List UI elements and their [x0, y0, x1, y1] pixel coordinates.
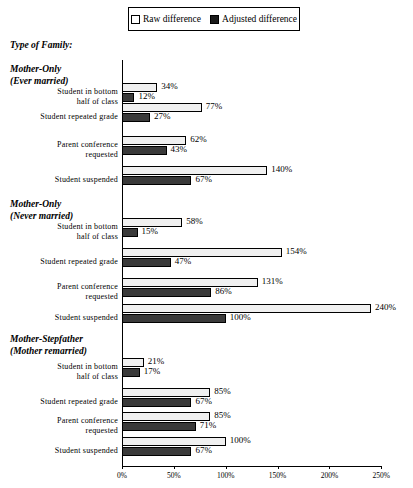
category-label-line: Student repeated grade — [40, 112, 118, 122]
x-axis-line — [122, 466, 381, 467]
bar-value-adjusted: 12% — [138, 92, 155, 101]
bar-value-raw: 85% — [214, 387, 231, 396]
x-axis-tick — [174, 466, 175, 469]
category-label-line: Student suspended — [55, 313, 118, 323]
chart-plot-area: 0%50%100%150%200%250% Mother-Only(Ever m… — [0, 0, 413, 488]
bar-adjusted-difference — [122, 146, 167, 155]
x-axis-tick-label: 150% — [269, 471, 287, 480]
category-label: Student repeated grade — [40, 112, 118, 122]
bar-adjusted-difference — [122, 368, 140, 377]
x-axis-tick — [122, 466, 123, 469]
bar-adjusted-difference — [122, 93, 134, 102]
bar-adjusted-difference — [122, 288, 211, 297]
x-axis-tick — [226, 466, 227, 469]
bar-value-raw: 140% — [271, 165, 292, 174]
bar-raw-difference — [122, 248, 282, 257]
x-axis-tick-label: 200% — [321, 471, 339, 480]
category-label-line: requested — [57, 292, 118, 302]
group-heading-name: Mother-Only — [10, 64, 68, 76]
bar-value-adjusted: 15% — [142, 227, 159, 236]
bar-value-adjusted: 47% — [175, 257, 192, 266]
category-label-line: half of class — [57, 97, 118, 107]
bar-adjusted-difference — [122, 422, 196, 431]
category-label-line: Parent conference — [57, 282, 118, 292]
bar-value-raw: 34% — [161, 82, 178, 91]
category-label: Parent conferencerequested — [57, 282, 118, 301]
group-heading: Mother-Only(Never married) — [10, 199, 73, 222]
x-axis-tick-label: 0% — [117, 471, 127, 480]
category-label-line: Parent conference — [57, 140, 118, 150]
bar-raw-difference — [122, 358, 144, 367]
category-label: Student repeated grade — [40, 397, 118, 407]
category-label: Student in bottomhalf of class — [57, 222, 118, 241]
bar-adjusted-difference — [122, 398, 191, 407]
category-label-line: Student suspended — [55, 175, 118, 185]
bar-adjusted-difference — [122, 176, 191, 185]
bar-raw-difference — [122, 412, 210, 421]
category-label-line: requested — [57, 426, 118, 436]
category-label-line: Student suspended — [55, 446, 118, 456]
x-axis-tick-label: 100% — [217, 471, 235, 480]
bar-value-adjusted: 71% — [200, 421, 217, 430]
category-label: Student suspended — [55, 175, 118, 185]
bar-value-adjusted: 67% — [195, 397, 212, 406]
category-label: Student in bottomhalf of class — [57, 362, 118, 381]
group-heading-name: Mother-Only — [10, 199, 73, 211]
x-axis-tick-label: 50% — [167, 471, 181, 480]
category-label: Parent conferencerequested — [57, 140, 118, 159]
bar-value-raw: 21% — [148, 357, 165, 366]
bar-adjusted-difference — [122, 258, 171, 267]
bar-value-raw: 154% — [286, 247, 307, 256]
group-heading-subtitle: (Ever married) — [10, 76, 68, 88]
x-axis-tick — [329, 466, 330, 469]
x-axis-tick — [381, 466, 382, 469]
category-label-line: half of class — [57, 232, 118, 242]
bar-value-raw: 100% — [230, 436, 251, 445]
group-heading: Mother-Only(Ever married) — [10, 64, 68, 87]
bar-value-raw: 62% — [190, 135, 207, 144]
bar-adjusted-difference — [122, 447, 191, 456]
category-label: Student suspended — [55, 446, 118, 456]
bar-raw-difference — [122, 278, 258, 287]
bar-value-raw: 131% — [262, 277, 283, 286]
bar-value-adjusted: 43% — [171, 145, 188, 154]
group-heading: Mother-Stepfather(Mother remarried) — [10, 334, 87, 357]
bar-value-adjusted: 86% — [215, 287, 232, 296]
x-axis-tick-label: 250% — [373, 471, 391, 480]
bar-value-adjusted: 67% — [195, 175, 212, 184]
bar-adjusted-difference — [122, 113, 150, 122]
category-label: Student suspended — [55, 313, 118, 323]
x-axis-tick — [278, 466, 279, 469]
bar-value-raw: 85% — [214, 411, 231, 420]
bar-value-adjusted: 100% — [230, 313, 251, 322]
bar-value-raw: 77% — [206, 102, 223, 111]
group-heading-name: Mother-Stepfather — [10, 334, 87, 346]
category-label: Student in bottomhalf of class — [57, 87, 118, 106]
category-label: Student repeated grade — [40, 257, 118, 267]
category-label-line: Parent conference — [57, 416, 118, 426]
category-label-line: requested — [57, 150, 118, 160]
group-heading-subtitle: (Never married) — [10, 211, 73, 223]
category-label-line: Student in bottom — [57, 362, 118, 372]
bar-value-raw: 58% — [186, 217, 203, 226]
category-label-line: Student repeated grade — [40, 397, 118, 407]
bar-adjusted-difference — [122, 314, 226, 323]
group-heading-subtitle: (Mother remarried) — [10, 346, 87, 358]
bar-value-adjusted: 67% — [195, 446, 212, 455]
category-label-line: Student repeated grade — [40, 257, 118, 267]
bar-value-raw: 240% — [375, 303, 396, 312]
category-label-line: half of class — [57, 372, 118, 382]
bar-value-adjusted: 27% — [154, 112, 171, 121]
bar-value-adjusted: 17% — [144, 367, 161, 376]
bar-adjusted-difference — [122, 228, 138, 237]
category-label-line: Student in bottom — [57, 222, 118, 232]
category-label: Parent conferencerequested — [57, 416, 118, 435]
category-label-line: Student in bottom — [57, 87, 118, 97]
